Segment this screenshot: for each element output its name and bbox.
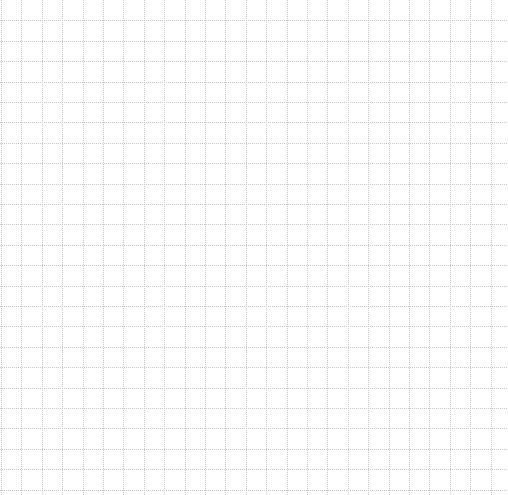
- grid-lines: [0, 0, 508, 495]
